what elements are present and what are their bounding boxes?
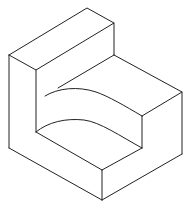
isometric-drawing <box>0 0 191 211</box>
floor-front-edge <box>36 132 102 170</box>
bottom-right-edge <box>102 154 182 200</box>
lower-curve <box>36 120 142 149</box>
step-top-face <box>114 55 182 116</box>
bottom-left-edge <box>9 148 102 200</box>
back-wall-top <box>58 55 114 88</box>
upper-curve <box>45 89 142 116</box>
tall-top-face <box>9 8 114 70</box>
floor-right-edge <box>102 148 142 170</box>
